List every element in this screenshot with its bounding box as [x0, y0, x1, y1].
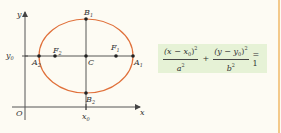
y0-label: y0 [5, 51, 15, 61]
equals-one: = 1 [253, 50, 264, 68]
x0-label: x0 [82, 112, 91, 122]
label-c: C [88, 58, 94, 67]
y-axis-label: y [16, 10, 22, 19]
x-axis-label: x [140, 108, 145, 117]
ellipse-diagram: y x O y0 x0 B1 B2 A2 A1 F2 F1 C (x − x0)… [0, 0, 281, 133]
label-f2: F2 [52, 46, 62, 56]
label-b2: B2 [85, 95, 95, 105]
fraction-y-term: (y − y0)2 b2 [213, 43, 248, 74]
fraction-y-numerator: (y − y0)2 [213, 43, 248, 60]
plus-sign: + [202, 54, 209, 63]
point-b1 [84, 17, 88, 21]
origin-label: O [16, 109, 23, 118]
fraction-x-term: (x − x0)2 a2 [163, 43, 198, 74]
fraction-x-numerator: (x − x0)2 [163, 43, 198, 60]
page-edge-rule [278, 0, 280, 133]
fraction-y-denominator: b2 [227, 60, 235, 74]
ellipse-equation: (x − x0)2 a2 + (y − y0)2 b2 = 1 [158, 44, 267, 73]
point-f1 [114, 54, 118, 58]
label-a1: A1 [133, 58, 143, 68]
fraction-x-denominator: a2 [177, 60, 185, 74]
label-b1: B1 [83, 8, 93, 18]
label-f1: F1 [110, 43, 120, 53]
